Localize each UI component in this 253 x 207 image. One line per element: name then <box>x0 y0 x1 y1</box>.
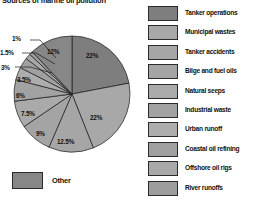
pie-chart: 22%22%12.5%9%7.5%6%3.5%3%1.5%1%12% <box>0 18 145 168</box>
other-label: Other <box>52 176 71 185</box>
legend-swatch <box>148 64 178 79</box>
legend-swatch <box>148 6 178 21</box>
legend-label: Industrial waste <box>185 106 231 113</box>
legend-label: Tanker operations <box>185 9 237 16</box>
slice-percent-label: 22% <box>86 52 98 59</box>
legend-swatch <box>148 181 178 196</box>
legend-swatch <box>148 161 178 176</box>
legend-label: Coastal oil refining <box>185 145 239 152</box>
slice-percent-label: 12.5% <box>57 138 74 145</box>
slice-percent-label: 1% <box>12 35 21 42</box>
legend-swatch <box>148 122 178 137</box>
legend-item[interactable]: Natural seeps <box>148 84 253 103</box>
slice-percent-label: 3.5% <box>17 76 31 83</box>
slice-percent-label: 22% <box>90 114 102 121</box>
legend-label: Natural seeps <box>185 87 225 94</box>
legend-swatch <box>148 25 178 40</box>
legend-item[interactable]: Offshore oil rigs <box>148 161 253 180</box>
legend-item[interactable]: Municipal wastes <box>148 25 253 44</box>
legend-item[interactable]: Coastal oil refining <box>148 142 253 161</box>
slice-percent-label: 7.5% <box>21 110 35 117</box>
legend-swatch <box>148 45 178 60</box>
pie-slices <box>14 36 130 152</box>
legend-label: Municipal wastes <box>185 28 235 35</box>
slice-percent-label: 9% <box>36 130 45 137</box>
legend-item[interactable]: Tanker operations <box>148 6 253 25</box>
legend-item[interactable]: Urban runoff <box>148 122 253 141</box>
legend-label: Offshore oil rigs <box>185 164 232 171</box>
legend-item[interactable]: Industrial waste <box>148 103 253 122</box>
legend-swatch <box>148 103 178 118</box>
legend-swatch <box>148 84 178 99</box>
slice-percent-label: 3% <box>1 64 10 71</box>
slice-percent-label: 1.5% <box>0 49 14 56</box>
legend-label: River runoffs <box>185 184 223 191</box>
legend-label: Bilge and fuel oils <box>185 67 237 74</box>
legend-label: Urban runoff <box>185 125 222 132</box>
legend-swatch <box>148 142 178 157</box>
other-key: Other <box>12 171 132 195</box>
legend-item[interactable]: Tanker accidents <box>148 45 253 64</box>
page-title: Sources of marine oil pollution <box>2 0 106 5</box>
legend: Tanker operationsMunicipal wastesTanker … <box>148 6 253 204</box>
legend-label: Tanker accidents <box>185 48 234 55</box>
legend-item[interactable]: River runoffs <box>148 181 253 200</box>
legend-item[interactable]: Bilge and fuel oils <box>148 64 253 83</box>
slice-percent-label: 6% <box>16 92 25 99</box>
other-swatch <box>12 172 43 189</box>
slice-percent-label: 12% <box>47 48 59 55</box>
